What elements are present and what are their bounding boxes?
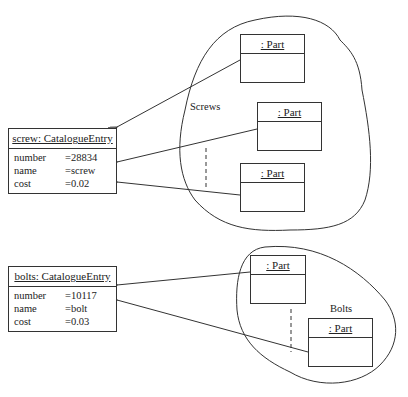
attribute-row: name=screw (9, 164, 116, 177)
attribute-row: cost=0.02 (9, 177, 116, 190)
bolt-entry-title: bolts: CatalogueEntry (9, 267, 116, 287)
screw-part-2: : Part (257, 102, 322, 151)
attribute-row: name=bolt (9, 302, 116, 315)
bolt-part-2: : Part (308, 318, 373, 367)
screw-entry-title: screw: CatalogueEntry (9, 129, 116, 149)
bolt-catalogue-entry: bolts: CatalogueEntry number=10117 name=… (8, 266, 117, 332)
screws-group-label: Screws (190, 101, 220, 112)
screw-part-3: : Part (240, 163, 305, 212)
attribute-row: number=28834 (9, 151, 116, 164)
attribute-row: cost=0.03 (9, 315, 116, 328)
attribute-row: number=10117 (9, 289, 116, 302)
screw-catalogue-entry: screw: CatalogueEntry number=28834 name=… (8, 128, 117, 194)
bolts-group-label: Bolts (330, 303, 352, 314)
bolt-part-1: : Part (250, 255, 306, 304)
screw-part-1: : Part (240, 34, 305, 83)
